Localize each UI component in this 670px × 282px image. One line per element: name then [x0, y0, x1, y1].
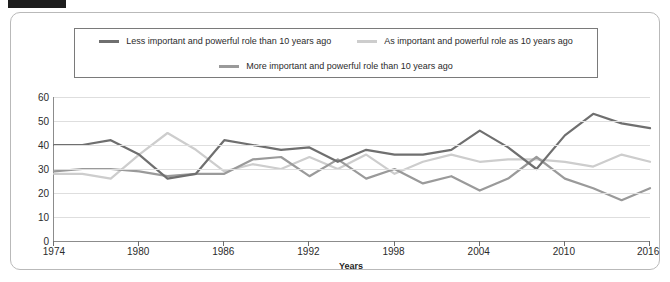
y-axis-tick-label: 0: [27, 236, 49, 247]
y-axis-tick-labels: 0102030405060: [27, 97, 49, 241]
plot-area: [53, 97, 650, 242]
gridline: [54, 193, 650, 194]
x-axis-tick-label: 1980: [127, 246, 149, 257]
legend-label: As important and powerful role as 10 yea…: [384, 36, 573, 47]
y-axis-tick-label: 10: [27, 212, 49, 223]
x-axis-tick-label: 2010: [553, 246, 575, 257]
x-axis-tick-label: 1998: [382, 246, 404, 257]
legend-entry-more-important[interactable]: More important and powerful role than 10…: [219, 61, 453, 72]
y-axis-tick-label: 20: [27, 188, 49, 199]
x-axis-title: Years: [53, 261, 649, 271]
x-axis-tick-label: 1974: [43, 246, 65, 257]
y-axis-tick-label: 40: [27, 140, 49, 151]
y-axis-tick-label: 60: [27, 92, 49, 103]
legend-line-swatch: [357, 40, 377, 43]
gridline: [54, 217, 650, 218]
x-axis-tick-labels: 19741980198619921998200420102016: [53, 246, 649, 260]
gridline: [54, 97, 650, 98]
legend-row-top: Less important and powerful role than 10…: [75, 29, 597, 54]
x-axis-tick-label: 2004: [468, 246, 490, 257]
legend-row-bottom: More important and powerful role than 10…: [75, 54, 597, 79]
y-axis-tick-label: 50: [27, 116, 49, 127]
legend-entry-as-important[interactable]: As important and powerful role as 10 yea…: [357, 36, 573, 47]
x-axis-tick-label: 1986: [212, 246, 234, 257]
legend-label: More important and powerful role than 10…: [246, 61, 453, 72]
y-axis-tick-label: 30: [27, 164, 49, 175]
legend-line-swatch: [99, 40, 119, 43]
gridline: [54, 121, 650, 122]
x-axis-tick-label: 2016: [637, 246, 659, 257]
legend-line-swatch: [219, 65, 239, 68]
gridline: [54, 169, 650, 170]
legend-entry-less-important[interactable]: Less important and powerful role than 10…: [99, 36, 331, 47]
line-chart: 0102030405060 19741980198619921998200420…: [27, 89, 655, 267]
chart-legend: Less important and powerful role than 10…: [74, 28, 598, 78]
legend-label: Less important and powerful role than 10…: [126, 36, 331, 47]
gridline: [54, 145, 650, 146]
page-crop-marker: [8, 0, 66, 8]
chart-card: Less important and powerful role than 10…: [10, 12, 660, 270]
x-axis-tick-label: 1992: [297, 246, 319, 257]
